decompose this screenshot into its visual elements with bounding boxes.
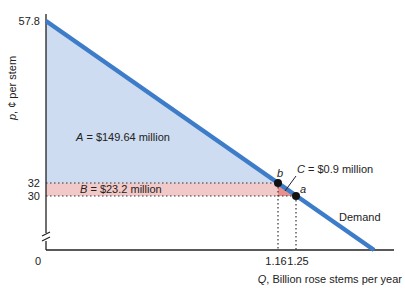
point-b xyxy=(274,179,282,187)
point-a-label: a xyxy=(300,183,306,195)
demand-chart: 57.8 32 30 0 1.16 1.25 Q, Billion rose s… xyxy=(0,0,405,288)
area-a-label: A = $149.64 million xyxy=(75,131,170,143)
origin-label: 0 xyxy=(35,255,41,267)
point-b-label: b xyxy=(277,167,283,179)
c-leader-line xyxy=(285,176,296,191)
x-axis-label: Q, Billion rose stems per year xyxy=(258,273,403,285)
area-b-label: B = $23.2 million xyxy=(80,183,162,195)
y-tick-57-8: 57.8 xyxy=(19,15,40,27)
y-tick-30: 30 xyxy=(28,190,40,202)
y-tick-32: 32 xyxy=(28,177,40,189)
x-tick-1-25: 1.25 xyxy=(287,255,308,267)
y-axis-label: p, ¢ per stem xyxy=(6,56,18,121)
area-c-label: C = $0.9 million xyxy=(297,163,373,175)
x-tick-1-16: 1.16 xyxy=(265,255,286,267)
point-a xyxy=(292,192,300,200)
demand-label: Demand xyxy=(339,211,381,223)
